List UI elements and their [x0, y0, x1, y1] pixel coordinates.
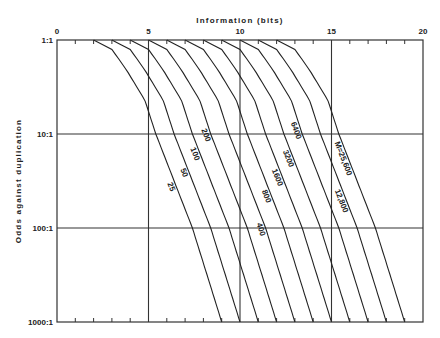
curve-M-50 [112, 40, 240, 322]
curve-label-M-12800: 12,800 [333, 188, 350, 215]
x-tick-label: 10 [236, 27, 245, 36]
curve-M-800 [185, 40, 313, 322]
curve-M-25600 [277, 40, 405, 322]
curve-label-M-800: 800 [260, 188, 273, 204]
curve-label-M-50: 50 [178, 167, 190, 179]
curve-M-200 [149, 40, 277, 322]
x-tick-label: 20 [419, 27, 428, 36]
curve-label-M-400: 400 [255, 222, 268, 238]
x-axis-title: Information (bits) [196, 16, 283, 25]
curve-label-M-3200: 3200 [281, 149, 296, 169]
y-tick-label: 1:1 [41, 36, 53, 45]
curve-M-6400 [240, 40, 368, 322]
duplication-odds-chart: Information (bits) Odds against duplicat… [0, 0, 440, 338]
y-tick-label: 100:1 [33, 224, 54, 233]
y-tick-label: 1000:1 [28, 318, 53, 327]
curve-label-M-200: 200 [199, 127, 212, 143]
curve-M-100 [130, 40, 258, 322]
curve-label-M-6400: 6400 [289, 121, 304, 141]
curves [94, 40, 405, 322]
grid-lines [57, 40, 423, 322]
x-tick-labels: 05101520 [55, 27, 428, 36]
y-axis-title: Odds against duplication [14, 119, 23, 243]
curve-M-3200 [222, 40, 350, 322]
y-tick-labels: 1:110:1100:11000:1 [28, 36, 53, 327]
curve-label-M-1600: 1600 [270, 167, 285, 187]
curve-M-25 [94, 40, 222, 322]
curve-label-M-25: 25 [165, 181, 177, 193]
curve-label-M-100: 100 [188, 146, 201, 162]
x-tick-label: 15 [327, 27, 336, 36]
curve-M-1600 [203, 40, 331, 322]
y-tick-label: 10:1 [37, 130, 54, 139]
x-tick-label: 5 [146, 27, 151, 36]
x-tick-label: 0 [55, 27, 60, 36]
